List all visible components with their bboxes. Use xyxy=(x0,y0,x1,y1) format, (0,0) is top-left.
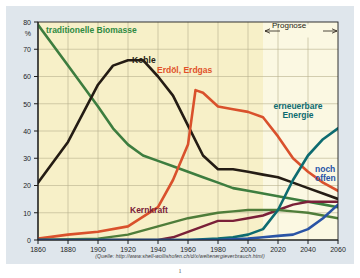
series-label-erdoel-erdgas: Erdöl, Erdgas xyxy=(157,66,212,75)
x-axis-ticks: 1860 1880 1900 1920 1940 1960 1980 2000 … xyxy=(30,240,346,253)
x-tick-label: 2040 xyxy=(300,246,316,253)
y-axis-ticks: 80 % 70 60 50 40 30 20 10 0 xyxy=(23,19,38,244)
y-tick-label: 70 xyxy=(23,46,31,53)
series-label-biomasse: traditionelle Biomasse xyxy=(46,26,137,35)
x-tick-label: 2000 xyxy=(240,246,256,253)
x-tick-label: 1920 xyxy=(120,246,136,253)
y-tick-label: 80 xyxy=(23,19,31,26)
y-tick-label: 60 xyxy=(23,73,31,80)
x-tick-label: 1940 xyxy=(150,246,166,253)
series-label-kohle: Kohle xyxy=(132,56,156,65)
figure-container: 80 % 70 60 50 40 30 20 10 0 xyxy=(0,0,360,278)
y-tick-label: 0 xyxy=(27,237,31,244)
y-tick-label: 40 xyxy=(23,128,31,135)
x-tick-label: 2020 xyxy=(270,246,286,253)
energy-mix-line-chart: 80 % 70 60 50 40 30 20 10 0 xyxy=(12,10,348,262)
series-label-erneuerbare-energie: erneuerbare Energie xyxy=(267,102,329,120)
series-label-erneuerbare-line2: Energie xyxy=(282,110,313,120)
chart-figure: 80 % 70 60 50 40 30 20 10 0 xyxy=(12,10,348,262)
x-tick-label: 1960 xyxy=(180,246,196,253)
y-tick-label: 50 xyxy=(23,101,31,108)
y-tick-label: 30 xyxy=(23,155,31,162)
y-tick-label: 10 xyxy=(23,210,31,217)
x-tick-label: 1980 xyxy=(210,246,226,253)
forecast-label: Prognose xyxy=(272,22,306,30)
y-tick-label: 20 xyxy=(23,182,31,189)
source-note: (Quelle: http://www.shell-wollishofen.ch… xyxy=(12,253,348,259)
x-tick-label: 2060 xyxy=(330,246,346,253)
page-number: 1 xyxy=(0,268,360,274)
series-label-noch-offen-line2: offen xyxy=(315,173,336,183)
x-tick-label: 1880 xyxy=(60,246,76,253)
x-tick-label: 1860 xyxy=(30,246,46,253)
series-label-noch-offen: noch offen xyxy=(315,165,355,183)
x-tick-label: 1900 xyxy=(90,246,106,253)
series-label-kernkraft: Kernkraft xyxy=(130,206,168,215)
y-axis-unit-label: % xyxy=(25,30,31,37)
